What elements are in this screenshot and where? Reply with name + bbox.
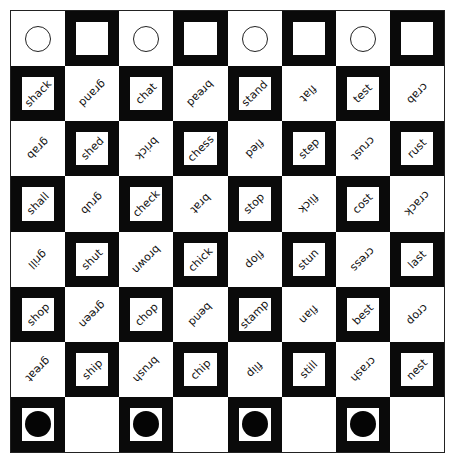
- board-square-r5-c2[interactable]: chop: [119, 287, 173, 342]
- square-face: bend: [173, 287, 227, 342]
- board-square-r0-c5[interactable]: [282, 11, 336, 66]
- square-face: [119, 11, 173, 66]
- board-square-r1-c0[interactable]: shack: [11, 66, 65, 121]
- board-square-r6-c4[interactable]: flip: [228, 342, 282, 397]
- square-word: chop: [132, 300, 160, 328]
- board-square-r5-c0[interactable]: shop: [11, 287, 65, 342]
- square-face: [184, 22, 216, 55]
- square-face: crust: [336, 121, 390, 176]
- board-square-r1-c6[interactable]: test: [336, 66, 390, 121]
- board-square-r7-c7[interactable]: [390, 397, 444, 452]
- board-square-r5-c4[interactable]: stamp: [228, 287, 282, 342]
- square-word: grub: [78, 190, 105, 217]
- square-face: step: [293, 132, 325, 165]
- board-square-r7-c4[interactable]: [228, 397, 282, 452]
- board-square-r3-c6[interactable]: cost: [336, 176, 390, 231]
- square-face: cress: [336, 232, 390, 287]
- square-word: chip: [188, 356, 214, 382]
- board-square-r5-c3[interactable]: bend: [173, 287, 227, 342]
- board-square-r4-c0[interactable]: grill: [11, 232, 65, 287]
- square-face: cost: [347, 187, 379, 220]
- board-square-r4-c5[interactable]: stun: [282, 232, 336, 287]
- board-square-r0-c1[interactable]: [65, 11, 119, 66]
- board-square-r3-c3[interactable]: brat: [173, 176, 227, 231]
- board-square-r0-c0[interactable]: [11, 11, 65, 66]
- board-square-r5-c7[interactable]: crop: [390, 287, 444, 342]
- board-square-r3-c1[interactable]: grub: [65, 176, 119, 231]
- black-counter-icon[interactable]: [350, 411, 376, 437]
- square-face: chick: [184, 243, 216, 276]
- board-square-r7-c1[interactable]: [65, 397, 119, 452]
- square-word: flop: [243, 247, 267, 271]
- board-square-r7-c0[interactable]: [11, 397, 65, 452]
- board-square-r4-c6[interactable]: cress: [336, 232, 390, 287]
- board-square-r4-c3[interactable]: chick: [173, 232, 227, 287]
- board-square-r1-c4[interactable]: stand: [228, 66, 282, 121]
- board-square-r5-c1[interactable]: green: [65, 287, 119, 342]
- board-square-r3-c4[interactable]: stop: [228, 176, 282, 231]
- black-counter-icon[interactable]: [25, 411, 51, 437]
- board-square-r0-c7[interactable]: [390, 11, 444, 66]
- board-square-r0-c2[interactable]: [119, 11, 173, 66]
- white-counter-icon[interactable]: [25, 26, 51, 52]
- board-square-r4-c7[interactable]: last: [390, 232, 444, 287]
- board-square-r1-c3[interactable]: bread: [173, 66, 227, 121]
- board-square-r2-c1[interactable]: shed: [65, 121, 119, 176]
- board-square-r2-c3[interactable]: chess: [173, 121, 227, 176]
- board-square-r3-c2[interactable]: check: [119, 176, 173, 231]
- square-word: flip: [244, 359, 265, 380]
- board-square-r7-c2[interactable]: [119, 397, 173, 452]
- board-square-r5-c6[interactable]: best: [336, 287, 390, 342]
- board-square-r6-c7[interactable]: nest: [390, 342, 444, 397]
- board-square-r6-c2[interactable]: brush: [119, 342, 173, 397]
- square-word: shed: [78, 135, 106, 163]
- board-square-r3-c5[interactable]: flick: [282, 176, 336, 231]
- white-counter-icon[interactable]: [350, 26, 376, 52]
- square-word: grill: [26, 247, 50, 271]
- square-word: fled: [243, 137, 267, 161]
- board-square-r6-c3[interactable]: chip: [173, 342, 227, 397]
- board-square-r2-c7[interactable]: rust: [390, 121, 444, 176]
- square-face: [11, 11, 65, 66]
- square-face: shut: [76, 243, 108, 276]
- board-square-r3-c7[interactable]: crack: [390, 176, 444, 231]
- board-square-r4-c4[interactable]: flop: [228, 232, 282, 287]
- board-square-r2-c5[interactable]: step: [282, 121, 336, 176]
- board-square-r7-c6[interactable]: [336, 397, 390, 452]
- square-face: [401, 22, 433, 55]
- board-square-r5-c5[interactable]: flan: [282, 287, 336, 342]
- black-counter-icon[interactable]: [242, 411, 268, 437]
- board-square-r6-c1[interactable]: ship: [65, 342, 119, 397]
- board-square-r0-c4[interactable]: [228, 11, 282, 66]
- board-square-r2-c2[interactable]: brick: [119, 121, 173, 176]
- board-square-r2-c4[interactable]: fled: [228, 121, 282, 176]
- square-face: stun: [293, 243, 325, 276]
- black-counter-icon[interactable]: [133, 411, 159, 437]
- board-square-r0-c3[interactable]: [173, 11, 227, 66]
- board-square-r7-c5[interactable]: [282, 397, 336, 452]
- board-square-r6-c6[interactable]: crash: [336, 342, 390, 397]
- board-square-r1-c2[interactable]: chat: [119, 66, 173, 121]
- board-square-r3-c0[interactable]: shall: [11, 176, 65, 231]
- square-word: rust: [405, 136, 430, 161]
- white-counter-icon[interactable]: [133, 26, 159, 52]
- board-square-r1-c1[interactable]: grand: [65, 66, 119, 121]
- square-face: test: [347, 77, 379, 110]
- board-square-r4-c1[interactable]: shut: [65, 232, 119, 287]
- board-square-r2-c6[interactable]: crust: [336, 121, 390, 176]
- white-counter-icon[interactable]: [242, 26, 268, 52]
- square-word: crack: [402, 189, 433, 220]
- board-square-r6-c5[interactable]: still: [282, 342, 336, 397]
- square-word: cost: [350, 191, 376, 217]
- board-square-r2-c0[interactable]: grab: [11, 121, 65, 176]
- square-face: [130, 408, 162, 441]
- board-square-r0-c6[interactable]: [336, 11, 390, 66]
- board-square-r6-c0[interactable]: great: [11, 342, 65, 397]
- square-face: flip: [228, 342, 282, 397]
- word-checkers-board: shackgrandchatbreadstandflattestcrabgrab…: [10, 10, 445, 453]
- board-square-r1-c7[interactable]: crab: [390, 66, 444, 121]
- board-square-r4-c2[interactable]: brown: [119, 232, 173, 287]
- square-word: still: [297, 358, 320, 381]
- board-square-r1-c5[interactable]: flat: [282, 66, 336, 121]
- board-square-r7-c3[interactable]: [173, 397, 227, 452]
